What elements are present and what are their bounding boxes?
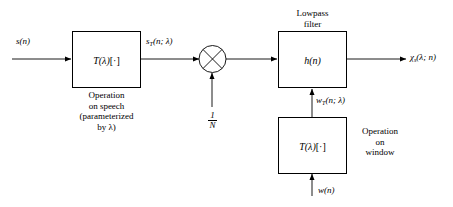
block-window-operation-label: T(λ)[·] — [279, 140, 346, 151]
block-speech-operation[interactable]: T(λ)[·] — [72, 31, 141, 88]
block-speech-operation-label: T(λ)[·] — [73, 54, 140, 65]
gain-denominator: N — [208, 120, 216, 130]
caption-lowpass-filter: Lowpass filter — [278, 8, 347, 29]
window-op-bracket: [·] — [316, 140, 326, 151]
caption-window-line-2: on — [352, 137, 408, 148]
st-args: (n; λ) — [153, 36, 173, 46]
caption-window-line-1: Operation — [352, 126, 408, 137]
gain-numerator: 1 — [208, 111, 216, 120]
caption-lowpass-line-2: filter — [278, 19, 347, 30]
caption-speech-line-3: (parameterized — [52, 111, 161, 122]
block-lowpass-filter-label: h(n) — [279, 54, 346, 65]
window-op-arg: (λ) — [305, 140, 316, 151]
caption-window-line-3: window — [352, 147, 408, 158]
label-input-window: w(n) — [318, 185, 335, 196]
wt-args: (n; λ) — [325, 95, 345, 105]
caption-speech-line-1: Operation — [52, 90, 161, 101]
gain-fraction: 1 N — [208, 111, 216, 131]
block-window-operation[interactable]: T(λ)[·] — [278, 117, 347, 174]
caption-speech-operation: Operation on speech (parameterized by λ) — [52, 90, 161, 132]
caption-speech-line-4: by λ) — [52, 122, 161, 133]
caption-speech-line-2: on speech — [52, 101, 161, 112]
caption-lowpass-line-1: Lowpass — [278, 8, 347, 19]
caption-window-operation: Operation on window — [352, 126, 408, 158]
label-gain: 1 N — [198, 111, 227, 131]
speech-op-bracket: [·] — [110, 54, 120, 65]
speech-op-arg: (λ) — [99, 54, 110, 65]
label-output: χs(λ; n) — [410, 52, 436, 64]
output-args: (λ; n) — [416, 52, 436, 62]
label-transformed-speech: sT(n; λ) — [146, 36, 173, 48]
block-diagram-canvas: T(λ)[·] h(n) T(λ)[·] s(n) sT(n; λ) 1 N w… — [0, 0, 453, 207]
label-input-speech: s(n) — [16, 36, 30, 47]
label-transformed-window: wT(n; λ) — [316, 95, 345, 107]
block-lowpass-filter[interactable]: h(n) — [278, 31, 347, 88]
